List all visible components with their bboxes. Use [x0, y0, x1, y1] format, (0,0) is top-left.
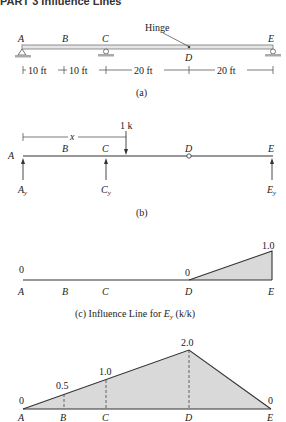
caption-c: (c) Influence Line for Ey (k/k) [75, 308, 195, 321]
influence-line-ey [23, 251, 272, 280]
figure-b-beam [23, 154, 273, 158]
roller-support-icon [104, 49, 109, 54]
value-label-e: 0 [268, 395, 273, 406]
hinge-icon [187, 154, 191, 158]
point-label-d: D [184, 286, 193, 297]
point-label-a: A [17, 412, 25, 422]
point-label-a: A [7, 150, 15, 161]
point-label-c: C [102, 412, 109, 422]
hinge-label: Hinge [145, 22, 170, 33]
point-label-e: E [267, 143, 274, 154]
point-label-e: E [267, 286, 274, 297]
caption-a: (a) [136, 87, 147, 99]
reaction-arrow-icon [21, 158, 25, 180]
point-label-e: E [267, 33, 274, 44]
point-label-b: B [62, 286, 68, 297]
reaction-label-ay: Ay [17, 184, 28, 197]
point-label-b: B [62, 143, 68, 154]
value-label-d: 0 [185, 267, 190, 278]
dimension-cd: 20 ft [134, 65, 153, 76]
dimension-ab: 10 ft [28, 65, 47, 76]
distance-x-label: x [69, 131, 75, 142]
point-label-b: B [60, 412, 66, 422]
point-label-b: B [62, 33, 68, 44]
ground-icon [98, 54, 114, 57]
value-label-d: 2.0 [181, 337, 194, 348]
point-label-a: A [17, 286, 25, 297]
point-label-d: D [184, 52, 193, 63]
value-label-b: 0.5 [56, 380, 69, 391]
dimension-bc: 10 ft [69, 65, 88, 76]
value-label-e: 1.0 [262, 240, 275, 251]
pin-support-icon [18, 49, 26, 55]
point-label-c: C [102, 286, 109, 297]
figure-a-beam [15, 33, 281, 58]
reaction-arrow-icon [270, 158, 274, 180]
reaction-arrow-icon [104, 158, 108, 180]
roller-support-icon [271, 49, 276, 54]
reaction-label-cy: Cy [101, 184, 112, 197]
point-label-d: D [184, 143, 193, 154]
dimension-de: 20 ft [217, 65, 236, 76]
point-label-a: A [17, 33, 25, 44]
load-label: 1 k [120, 120, 133, 131]
hinge-leader-line [163, 33, 188, 46]
value-label-a: 0 [19, 395, 24, 406]
point-label-c: C [102, 33, 109, 44]
point-label-e: E [266, 412, 273, 422]
value-label-a: 0 [19, 264, 24, 275]
ground-icon [15, 55, 31, 58]
influence-line-figure: Hinge A B C D E 10 ft 10 ft 20 ft 20 ft … [0, 0, 286, 422]
caption-b: (b) [136, 207, 148, 219]
ground-icon [265, 54, 281, 57]
point-label-c: C [102, 143, 109, 154]
reaction-label-ey: Ey [266, 184, 277, 197]
hinge-icon [188, 46, 191, 49]
point-label-d: D [184, 412, 193, 422]
load-arrow-icon [124, 131, 128, 155]
value-label-c: 1.0 [99, 366, 112, 377]
